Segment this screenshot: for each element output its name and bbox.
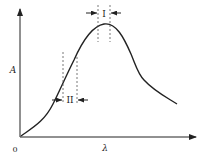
origin-label: 0 — [12, 145, 17, 154]
absorption-curve — [21, 24, 177, 136]
x-axis-label: λ — [101, 143, 108, 153]
spectrum-diagram: I II A 0 λ — [0, 0, 201, 163]
y-axis-label: A — [9, 65, 17, 75]
band-II-label: II — [66, 95, 74, 105]
band-I-label: I — [102, 9, 106, 19]
